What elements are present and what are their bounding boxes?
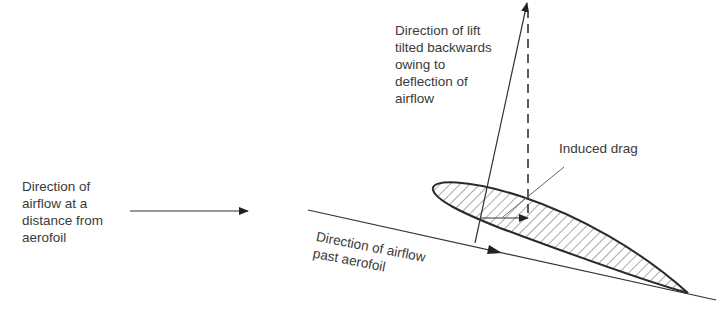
airflow-far-label: Direction of airflow at a distance from … xyxy=(22,178,103,246)
airflow-past-arrowhead xyxy=(487,245,502,254)
aerofoil xyxy=(420,170,700,300)
induced-drag-label: Induced drag xyxy=(559,140,638,157)
lift-direction-label: Direction of lift tilted backwards owing… xyxy=(395,22,492,107)
aerofoil-hatching xyxy=(420,170,700,300)
